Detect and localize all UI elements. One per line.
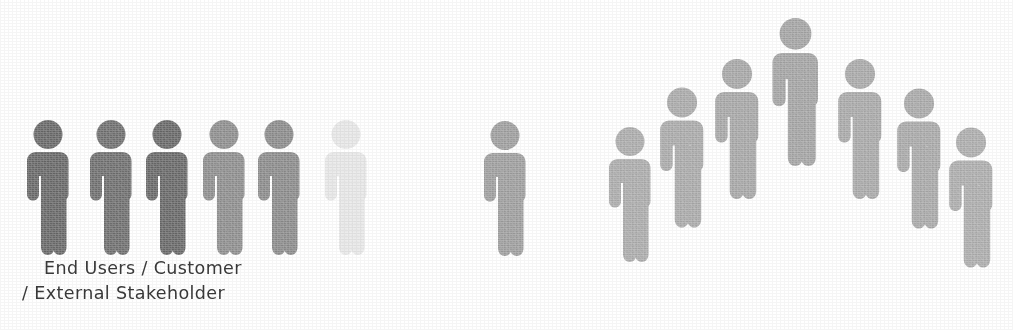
person-pictogram-icon bbox=[710, 56, 764, 203]
person-pictogram-icon bbox=[320, 117, 372, 259]
person-pictogram-icon bbox=[944, 124, 998, 272]
person-pictogram-icon bbox=[655, 85, 709, 231]
person-pictogram-icon bbox=[85, 117, 137, 259]
caption-line-1: End Users / Customer bbox=[44, 256, 242, 281]
person-pictogram-icon bbox=[141, 117, 193, 259]
person-pictogram-icon bbox=[479, 119, 531, 259]
person-pictogram-icon bbox=[892, 85, 946, 233]
caption-line-2: / External Stakeholder bbox=[22, 281, 242, 306]
person-pictogram-icon bbox=[604, 124, 656, 266]
person-pictogram-icon bbox=[253, 117, 305, 259]
person-pictogram-icon bbox=[198, 117, 250, 259]
person-pictogram-icon bbox=[833, 56, 887, 203]
person-pictogram-icon bbox=[22, 117, 74, 259]
person-pictogram-icon bbox=[767, 15, 824, 170]
left-group-caption: End Users / Customer / External Stakehol… bbox=[44, 256, 242, 306]
diagram-canvas: End Users / Customer / External Stakehol… bbox=[0, 0, 1013, 330]
